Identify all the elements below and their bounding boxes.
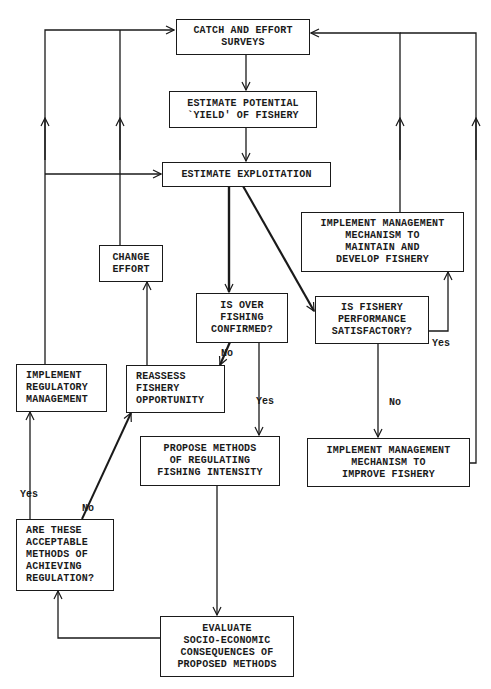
edge-label-acceptable-no: No [82, 503, 94, 514]
node-propose-methods: PROPOSE METHODS OF REGULATING FISHING IN… [140, 436, 280, 486]
node-acceptable-methods: ARE THESE ACCEPTABLE METHODS OF ACHIEVIN… [16, 519, 114, 591]
edge-label-acceptable-yes: Yes [20, 489, 38, 500]
node-is-fishery-performance-satisfactory: IS FISHERY PERFORMANCE SATISFACTORY? [315, 296, 429, 344]
node-maintain-develop-fishery: IMPLEMENT MANAGEMENT MECHANISM TO MAINTA… [301, 212, 464, 272]
edge-label-over-fishing-yes: Yes [256, 396, 274, 407]
edge-label-performance-yes: Yes [432, 338, 450, 349]
edge-label-over-fishing-no: No [221, 348, 233, 359]
edge-label-performance-no: No [389, 397, 401, 408]
node-estimate-exploitation: ESTIMATE EXPLOITATION [162, 162, 331, 187]
node-catch-effort-surveys: CATCH AND EFFORT SURVEYS [176, 19, 310, 55]
node-reassess-fishery-opportunity: REASSESS FISHERY OPPORTUNITY [126, 365, 225, 413]
node-improve-fishery: IMPLEMENT MANAGEMENT MECHANISM TO IMPROV… [307, 438, 470, 487]
node-estimate-potential-yield: ESTIMATE POTENTIAL `YIELD' OF FISHERY [169, 91, 317, 128]
flowchart-canvas: CATCH AND EFFORT SURVEYS ESTIMATE POTENT… [0, 0, 491, 689]
node-change-effort: CHANGE EFFORT [99, 245, 163, 282]
node-implement-regulatory-management: IMPLEMENT REGULATORY MANAGEMENT [16, 364, 107, 412]
node-evaluate-socio-economic: EVALUATE SOCIO-ECONOMIC CONSEQUENCES OF … [160, 616, 294, 677]
node-is-over-fishing-confirmed: IS OVER FISHING CONFIRMED? [196, 293, 288, 343]
